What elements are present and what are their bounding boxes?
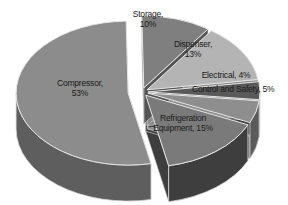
label-dispenser: Dispenser, 13% bbox=[168, 39, 218, 59]
label-electrical-text: Electrical, 4% bbox=[200, 70, 252, 80]
label-control-safety: Control and Safety, 5% bbox=[192, 84, 272, 94]
label-compressor-value: 53% bbox=[40, 88, 120, 98]
pie-chart bbox=[0, 0, 288, 205]
label-refrigeration: Refrigeration Equipment, 15% bbox=[150, 113, 216, 133]
label-storage: Storage, 10% bbox=[128, 9, 168, 29]
label-storage-value: 10% bbox=[128, 19, 168, 29]
label-refrigeration-value: Equipment, 15% bbox=[150, 123, 216, 133]
label-dispenser-name: Dispenser, bbox=[168, 39, 218, 49]
label-refrigeration-name: Refrigeration bbox=[150, 113, 216, 123]
label-storage-name: Storage, bbox=[128, 9, 168, 19]
label-electrical: Electrical, 4% bbox=[200, 70, 252, 80]
label-dispenser-value: 13% bbox=[168, 49, 218, 59]
label-control-safety-text: Control and Safety, 5% bbox=[192, 84, 272, 94]
label-compressor-name: Compressor, bbox=[40, 78, 120, 88]
label-compressor: Compressor, 53% bbox=[40, 78, 120, 98]
